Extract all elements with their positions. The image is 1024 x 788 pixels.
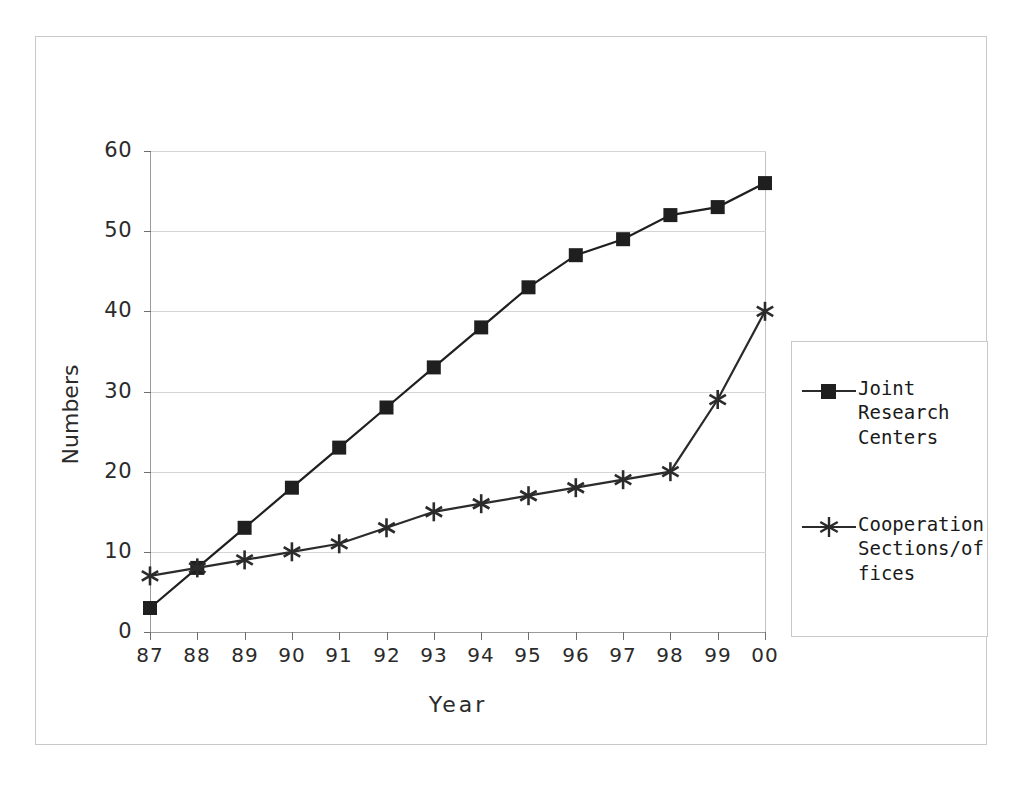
gridline xyxy=(150,472,766,473)
x-tick-mark xyxy=(197,632,198,640)
x-tick-mark xyxy=(387,632,388,640)
y-axis-title: Numbers xyxy=(58,305,83,525)
x-tick-mark xyxy=(765,632,766,640)
y-tick-mark xyxy=(144,231,151,232)
x-tick-mark xyxy=(150,632,151,640)
y-tick-mark xyxy=(144,392,151,393)
legend: Joint Research Centers Cooperation Secti… xyxy=(791,341,988,637)
x-tick-mark xyxy=(245,632,246,640)
y-tick-label: 20 xyxy=(88,461,132,482)
line-chart: 0102030405060 87888990919293949596979899… xyxy=(0,0,1024,788)
y-tick-mark xyxy=(144,151,151,152)
y-tick-mark xyxy=(144,552,151,553)
x-tick-mark xyxy=(292,632,293,640)
y-tick-label: 60 xyxy=(88,140,132,161)
x-axis-title: Year xyxy=(150,692,766,717)
x-tick-mark xyxy=(481,632,482,640)
x-tick-mark xyxy=(576,632,577,640)
legend-item-cooperation-sections-offices[interactable]: Cooperation Sections/of fices xyxy=(792,514,989,585)
legend-item-joint-research-centers[interactable]: Joint Research Centers xyxy=(792,378,989,449)
x-tick-mark xyxy=(718,632,719,640)
y-tick-mark xyxy=(144,311,151,312)
x-axis-line xyxy=(150,632,766,633)
gridline xyxy=(150,392,766,393)
x-tick-label: 00 xyxy=(735,645,795,665)
gridline xyxy=(150,151,766,152)
y-tick-label: 0 xyxy=(88,621,132,642)
legend-marker-asterisk-icon xyxy=(800,514,858,540)
x-tick-mark xyxy=(623,632,624,640)
y-tick-label: 40 xyxy=(88,300,132,321)
legend-label: Joint Research Centers xyxy=(858,376,950,449)
x-tick-mark xyxy=(528,632,529,640)
x-tick-mark xyxy=(434,632,435,640)
y-tick-label: 50 xyxy=(88,220,132,241)
gridline xyxy=(150,311,766,312)
y-tick-label: 10 xyxy=(88,541,132,562)
x-tick-mark xyxy=(339,632,340,640)
y-tick-label: 30 xyxy=(88,381,132,402)
legend-label: Cooperation Sections/of fices xyxy=(858,512,984,585)
y-tick-mark xyxy=(144,472,151,473)
legend-marker-square-icon xyxy=(800,378,858,404)
gridline xyxy=(150,552,766,553)
gridline xyxy=(150,231,766,232)
x-tick-mark xyxy=(670,632,671,640)
